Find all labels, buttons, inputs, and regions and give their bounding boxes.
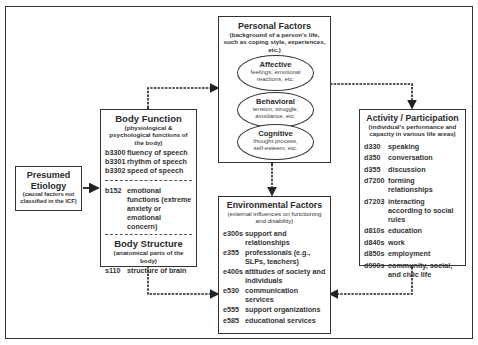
- cognitive-title: Cognitive: [238, 129, 313, 138]
- item-label: rhythm of speech: [127, 157, 192, 166]
- bf-item: b152emotional functions (extreme anxiety…: [105, 186, 192, 231]
- item-label: attitudes of society and individuals: [245, 267, 326, 285]
- env-item: e555support organizations: [223, 305, 326, 314]
- item-code: e530: [223, 286, 245, 304]
- body-structure-title: Body Structure: [105, 238, 192, 249]
- ap-item: d330speaking: [364, 142, 461, 151]
- env-item: e355professionals (e.g., SLPs, teachers): [223, 248, 326, 266]
- ellipse-cognitive: Cognitive thought process, self-esteem, …: [237, 124, 314, 160]
- bf-item: b3300fluency of speech: [105, 148, 192, 157]
- item-code: d840s: [364, 238, 388, 247]
- item-code: d350: [364, 153, 388, 162]
- item-code: s110: [105, 266, 127, 275]
- ap-item: d810seducation: [364, 226, 461, 235]
- etiology-title: Presumed Etiology: [16, 170, 81, 191]
- ap-item: d350conversation: [364, 153, 461, 162]
- item-code: b3302: [105, 166, 127, 175]
- body-function-title: Body Function: [105, 113, 192, 124]
- env-item: e585educational services: [223, 316, 326, 325]
- environmental-factors-box: Environmental Factors (external influenc…: [218, 196, 331, 334]
- item-label: education: [388, 226, 461, 235]
- cognitive-desc: thought process, self-esteem, etc.: [238, 138, 313, 152]
- item-code: d850s: [364, 249, 388, 258]
- item-label: fluency of speech: [127, 148, 192, 157]
- item-label: emotional functions (extreme anxiety or …: [127, 186, 192, 231]
- item-label: discussion: [388, 165, 461, 174]
- ellipse-behavioral: Behavioral tension, struggle, avoidance,…: [237, 92, 314, 128]
- etiology-subtitle: (causal factors not classified in the IC…: [16, 191, 81, 205]
- item-label: community, social, and civic life: [388, 261, 461, 279]
- personal-factors-title: Personal Factors: [219, 21, 330, 31]
- item-label: speed of speech: [127, 166, 192, 175]
- affective-title: Affective: [238, 60, 313, 69]
- activity-participation-title: Activity / Participation: [364, 113, 461, 123]
- body-function-box: Body Function (physiological & psycholog…: [100, 109, 197, 267]
- item-code: e585: [223, 316, 245, 325]
- affective-desc: feelings, emotional reactions, etc.: [238, 69, 313, 83]
- item-label: conversation: [388, 153, 461, 162]
- item-label: forming relationships: [388, 176, 461, 194]
- ap-item: d840swork: [364, 238, 461, 247]
- item-code: b3301: [105, 157, 127, 166]
- ap-item: d7200forming relationships: [364, 176, 461, 194]
- ap-item: d7203interacting according to social rul…: [364, 197, 461, 224]
- item-code: e400s: [223, 267, 245, 285]
- ellipse-affective: Affective feelings, emotional reactions,…: [237, 55, 314, 91]
- env-item: e300ssupport and relationships: [223, 229, 326, 247]
- divider: [105, 234, 192, 235]
- activity-participation-subtitle: (individual's performance and capacity i…: [364, 123, 461, 138]
- etiology-box: Presumed Etiology (causal factors not cl…: [15, 166, 82, 211]
- bf-item: b3301rhythm of speech: [105, 157, 192, 166]
- item-label: communication services: [245, 286, 326, 304]
- ap-item: d355discussion: [364, 165, 461, 174]
- item-code: d900s: [364, 261, 388, 279]
- behavioral-desc: tension, struggle, avoidance, etc.: [238, 106, 313, 120]
- item-code: b152: [105, 186, 127, 231]
- activity-participation-box: Activity / Participation (individual's p…: [359, 109, 466, 266]
- environmental-factors-subtitle: (external influences on functioning and …: [223, 210, 326, 225]
- ap-item: d900scommunity, social, and civic life: [364, 261, 461, 279]
- item-label: speaking: [388, 142, 461, 151]
- item-label: support organizations: [245, 305, 326, 314]
- body-structure-subtitle: (anatomical parts of the body): [105, 249, 192, 264]
- item-code: d7203: [364, 197, 388, 224]
- env-item: e530communication services: [223, 286, 326, 304]
- ap-item: d850semployment: [364, 249, 461, 258]
- personal-factors-subtitle: (background of a person's life, such as …: [219, 31, 330, 53]
- item-label: interacting according to social rules: [388, 197, 461, 224]
- item-code: e300s: [223, 229, 245, 247]
- item-code: d810s: [364, 226, 388, 235]
- behavioral-title: Behavioral: [238, 97, 313, 106]
- bs-item: s110structure of brain: [105, 266, 192, 275]
- item-code: e555: [223, 305, 245, 314]
- item-label: educational services: [245, 316, 326, 325]
- env-item: e400sattitudes of society and individual…: [223, 267, 326, 285]
- item-label: work: [388, 238, 461, 247]
- item-label: support and relationships: [245, 229, 326, 247]
- divider: [105, 180, 192, 181]
- item-code: b3300: [105, 148, 127, 157]
- bf-item: b3302speed of speech: [105, 166, 192, 175]
- item-code: e355: [223, 248, 245, 266]
- item-code: d7200: [364, 176, 388, 194]
- item-label: employment: [388, 249, 461, 258]
- item-label: structure of brain: [127, 266, 192, 275]
- item-code: d355: [364, 165, 388, 174]
- item-label: professionals (e.g., SLPs, teachers): [245, 248, 326, 266]
- environmental-factors-title: Environmental Factors: [223, 200, 326, 210]
- item-code: d330: [364, 142, 388, 151]
- body-function-subtitle: (physiological & psychological functions…: [105, 124, 192, 146]
